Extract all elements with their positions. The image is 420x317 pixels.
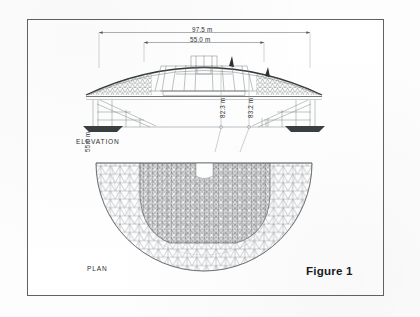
dimension-label-inner-span: 55.0 m bbox=[190, 36, 210, 43]
hanger-marker-left bbox=[229, 56, 234, 67]
elevation-view bbox=[83, 33, 325, 153]
figure-caption: Figure 1 bbox=[306, 264, 353, 277]
plan-centre-opening bbox=[196, 163, 213, 179]
dimension-label-right-height: 83.2 m bbox=[247, 98, 254, 118]
plan-radius-label: 55.0 m bbox=[84, 132, 91, 152]
dimension-label-left-height: 82.3 m bbox=[219, 98, 226, 118]
dimension-label-overall-span: 97.5 m bbox=[192, 26, 212, 33]
leader-line-left bbox=[215, 128, 221, 152]
foundation-pad-right bbox=[285, 126, 325, 132]
elevation-view-label: ELEVATION bbox=[76, 138, 120, 145]
drawing-canvas bbox=[0, 0, 420, 317]
roof-structure bbox=[150, 56, 258, 95]
plan-view-label: PLAN bbox=[87, 265, 108, 272]
leader-line-right bbox=[240, 128, 249, 152]
figure-page: 97.5 m 55.0 m 82.3 m 83.2 m ELEVATION 55… bbox=[0, 0, 420, 317]
substructure-left bbox=[93, 100, 156, 127]
plan-view bbox=[90, 158, 320, 278]
substructure-right bbox=[252, 100, 315, 127]
hanger-marker-right bbox=[265, 67, 270, 77]
